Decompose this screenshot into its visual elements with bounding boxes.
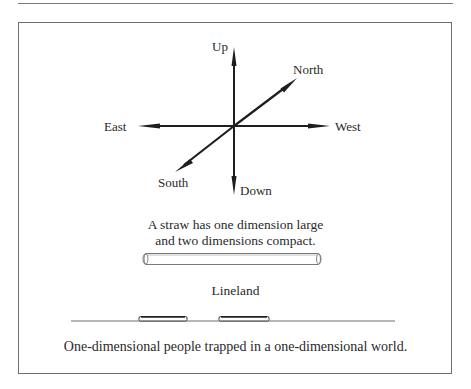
straw-caption-line-2: and two dimensions compact. (0, 233, 471, 249)
label-north: North (293, 62, 323, 77)
east-arrow-icon (138, 124, 234, 129)
label-west: West (335, 119, 361, 134)
lineland-label: Lineland (0, 283, 471, 299)
down-arrow-icon (232, 126, 237, 195)
lineland-person-2 (219, 317, 269, 322)
straw-illustration (143, 254, 321, 265)
straw-caption-line-1: A straw has one dimension large (0, 217, 471, 233)
lineland-person-1 (139, 317, 187, 322)
label-up: Up (212, 39, 228, 54)
north-arrow-icon (234, 78, 297, 126)
label-south: South (158, 175, 188, 190)
label-down: Down (240, 183, 272, 198)
up-arrow-icon (232, 47, 237, 126)
south-arrow-icon (175, 126, 234, 172)
label-east: East (104, 119, 126, 134)
west-arrow-icon (234, 124, 330, 129)
bottom-caption: One-dimensional people trapped in a one-… (0, 339, 471, 355)
dimension-axes-diagram (0, 0, 471, 389)
